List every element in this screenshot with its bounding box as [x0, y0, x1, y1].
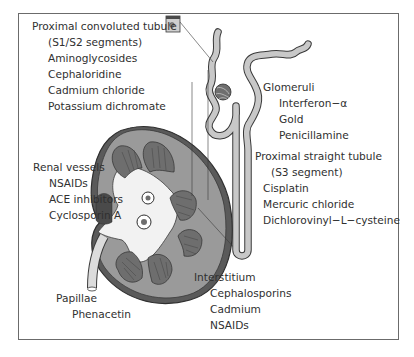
glomeruli-item: Gold	[263, 111, 349, 127]
glomeruli-item: Interferon−α	[263, 95, 349, 111]
pst-subheading: (S3 segment)	[255, 164, 400, 180]
pct-heading: Proximal convoluted tubule	[32, 18, 177, 34]
label-papillae: Papillae Phenacetin	[56, 290, 131, 322]
label-glomeruli: Glomeruli Interferon−α Gold Penicillamin…	[263, 79, 349, 143]
label-renal-vessels: Renal vessels NSAIDs ACE inhibitors Cycl…	[33, 159, 123, 223]
pct-item: Cadmium chloride	[32, 82, 177, 98]
glomeruli-item: Penicillamine	[263, 127, 349, 143]
interstitium-item: Cadmium	[194, 301, 292, 317]
papillae-item: Phenacetin	[56, 306, 131, 322]
glomeruli-heading: Glomeruli	[263, 79, 349, 95]
pst-heading: Proximal straight tubule	[255, 148, 400, 164]
interstitium-item: Cephalosporins	[194, 285, 292, 301]
renal-vessels-heading: Renal vessels	[33, 159, 123, 175]
interstitium-item: NSAIDs	[194, 317, 292, 333]
renal-vessels-item: Cyclosporin A	[33, 207, 123, 223]
pst-item: Dichlorovinyl−L−cysteine	[255, 212, 400, 228]
papillae-heading: Papillae	[56, 290, 131, 306]
renal-vessels-item: NSAIDs	[33, 175, 123, 191]
pct-item: Potassium dichromate	[32, 98, 177, 114]
label-interstitium: Interstitium Cephalosporins Cadmium NSAI…	[194, 269, 292, 333]
pst-item: Cisplatin	[255, 180, 400, 196]
label-proximal-convoluted-tubule: Proximal convoluted tubule (S1/S2 segmen…	[32, 18, 177, 114]
renal-vessels-item: ACE inhibitors	[33, 191, 123, 207]
pct-item: Cephaloridine	[32, 66, 177, 82]
pct-item: Aminoglycosides	[32, 50, 177, 66]
pct-subheading: (S1/S2 segments)	[32, 34, 177, 50]
interstitium-heading: Interstitium	[194, 269, 292, 285]
label-proximal-straight-tubule: Proximal straight tubule (S3 segment) Ci…	[255, 148, 400, 228]
pst-item: Mercuric chloride	[255, 196, 400, 212]
